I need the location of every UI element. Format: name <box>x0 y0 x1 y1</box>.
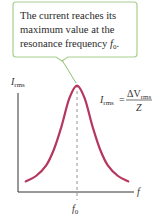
callout-pointer-line <box>62 60 76 83</box>
y-axis-label: Irms <box>10 76 25 89</box>
x-tick-label-f0: f0 <box>72 203 79 216</box>
formula-equals: = <box>119 94 125 105</box>
callout-line-1: The current reaches its <box>20 10 116 21</box>
x-axis-label: f <box>137 186 141 197</box>
formula: Irms = ΔVrms Z <box>99 88 152 113</box>
callout-line-2: maximum value at the <box>20 24 115 35</box>
formula-numerator: ΔVrms <box>127 88 151 101</box>
resonance-diagram: The current reaches its maximum value at… <box>0 0 159 223</box>
formula-denominator: Z <box>136 102 142 113</box>
formula-lhs: Irms <box>99 94 114 107</box>
